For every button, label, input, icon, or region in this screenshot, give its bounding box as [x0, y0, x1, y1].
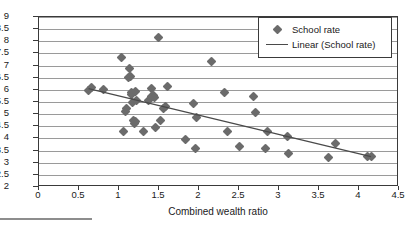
- y-axis-tick-label: 2.5: [0, 169, 9, 179]
- diamond-marker-icon: [264, 26, 290, 33]
- x-axis-tick-label: 4.5: [391, 190, 404, 200]
- y-axis-tick-label: 3.5: [0, 145, 9, 155]
- y-axis-tick-mark: [33, 137, 38, 138]
- y-axis-tick-label: 4: [4, 133, 9, 143]
- y-axis-tick-label: 6: [4, 84, 9, 94]
- x-axis-tick-mark: [358, 186, 359, 190]
- legend-item-school-rate: School rate: [264, 22, 386, 37]
- x-axis-tick-label: 2: [195, 190, 200, 200]
- x-axis-tick-mark: [398, 186, 399, 190]
- x-axis-label: Combined wealth ratio: [38, 206, 398, 217]
- y-axis-tick-mark: [33, 113, 38, 114]
- x-axis-tick-label: 3: [275, 190, 280, 200]
- y-axis-tick-mark: [33, 125, 38, 126]
- y-axis-tick-label: 7: [4, 60, 9, 70]
- y-axis-tick-label: 4.5: [0, 121, 9, 131]
- y-axis-tick-label: 5: [4, 108, 9, 118]
- x-axis-tick-label: 0.5: [71, 190, 84, 200]
- legend-label-linear-school-rate: Linear (School rate): [290, 40, 375, 50]
- y-axis-tick-mark: [33, 28, 38, 29]
- x-axis-tick-mark: [118, 186, 119, 190]
- x-axis-tick-mark: [158, 186, 159, 190]
- x-axis-tick-label: 2.5: [231, 190, 244, 200]
- y-axis-tick-label: 2: [4, 181, 9, 191]
- y-axis-tick-mark: [33, 65, 38, 66]
- y-axis-tick-mark: [33, 52, 38, 53]
- x-axis-tick-mark: [318, 186, 319, 190]
- y-axis-tick-label: 8: [4, 36, 9, 46]
- x-axis-tick-label: 0: [35, 190, 40, 200]
- line-marker-icon: [264, 44, 290, 46]
- y-axis-tick-label: 3: [4, 157, 9, 167]
- y-axis-tick-label: 6.5: [0, 72, 9, 82]
- y-axis-tick-mark: [33, 150, 38, 151]
- x-axis-tick-mark: [78, 186, 79, 190]
- y-axis-tick-label: 9: [4, 11, 9, 21]
- x-axis-tick-mark: [278, 186, 279, 190]
- x-axis-tick-label: 1: [115, 190, 120, 200]
- y-axis-tick-mark: [33, 162, 38, 163]
- x-axis-tick-mark: [198, 186, 199, 190]
- chart-legend: School rate Linear (School rate): [258, 17, 392, 58]
- y-axis-tick-label: 7.5: [0, 48, 9, 58]
- legend-label-school-rate: School rate: [290, 25, 340, 35]
- bottom-rule-artifact: [0, 218, 92, 220]
- y-axis-tick-mark: [33, 89, 38, 90]
- x-axis-tick-mark: [38, 186, 39, 190]
- scatter-chart-figure: Combined wealth ratio School rate Linear…: [0, 0, 410, 232]
- legend-item-linear-school-rate: Linear (School rate): [264, 37, 386, 52]
- y-axis-tick-mark: [33, 77, 38, 78]
- y-axis-tick-mark: [33, 16, 38, 17]
- y-axis-tick-mark: [33, 40, 38, 41]
- x-axis-tick-label: 1.5: [151, 190, 164, 200]
- x-axis-tick-label: 4: [355, 190, 360, 200]
- x-axis-tick-mark: [238, 186, 239, 190]
- x-axis-tick-label: 3.5: [311, 190, 324, 200]
- y-axis-tick-label: 5.5: [0, 96, 9, 106]
- trendline: [89, 89, 371, 157]
- y-axis-tick-label: 8.5: [0, 23, 9, 33]
- y-axis-tick-mark: [33, 174, 38, 175]
- y-axis-tick-mark: [33, 101, 38, 102]
